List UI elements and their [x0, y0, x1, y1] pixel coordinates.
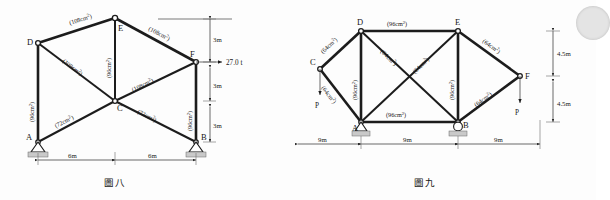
- node-label-C: C: [117, 103, 123, 113]
- load-label-27t: 27.0 t: [226, 59, 242, 67]
- svg-text:(96cm2): (96cm2): [351, 80, 359, 100]
- member-A-C: [38, 101, 115, 142]
- area-label-D-E-right: (96cm2): [387, 20, 407, 28]
- dim-label-3m-top: 3m: [213, 36, 222, 43]
- svg-text:(72cm2): (72cm2): [136, 107, 158, 124]
- svg-text:(96cm2): (96cm2): [387, 20, 407, 28]
- svg-text:(96cm2): (96cm2): [28, 102, 36, 122]
- area-label-D-E: (108cm2): [68, 12, 93, 27]
- dim-label-9m-mid: 9m: [403, 136, 412, 143]
- area-label-F-B: (96cm2): [186, 111, 194, 131]
- area-label-C-F: (108cm2): [130, 76, 155, 94]
- figure-eight-group: D E F C A B (108cm2) (108cm2) (108cm2): [26, 12, 242, 188]
- dim-label-3m-mid: 3m: [213, 82, 222, 89]
- node-label-A: A: [26, 132, 33, 142]
- dim-label-6m-right: 6m: [148, 152, 157, 159]
- member-B-F-right: [458, 76, 520, 122]
- svg-text:(108cm2): (108cm2): [130, 76, 155, 94]
- dim-label-6m-left: 6m: [68, 152, 77, 159]
- node-label-A-right: A: [352, 123, 359, 133]
- dim-label-3m-bottom: 3m: [213, 122, 222, 129]
- svg-text:(96cm2): (96cm2): [386, 111, 406, 119]
- svg-text:(64cm2): (64cm2): [411, 55, 431, 75]
- node-label-B: B: [201, 132, 207, 142]
- area-label-E-C: (96cm2): [105, 58, 113, 78]
- load-label-P-left: P: [315, 102, 319, 110]
- area-label-D-A-right: (96cm2): [351, 80, 359, 100]
- area-label-A-E-right: (64cm2): [411, 55, 431, 75]
- svg-text:(108cm2): (108cm2): [147, 24, 171, 42]
- caption-figure-nine: 圖九: [414, 177, 435, 188]
- node-label-D-right: D: [357, 17, 363, 27]
- svg-text:(108cm2): (108cm2): [61, 57, 85, 78]
- area-label-A-B-right: (96cm2): [386, 111, 406, 119]
- caption-figure-eight: 圖八: [104, 178, 125, 188]
- joint-E: [112, 15, 117, 20]
- node-label-D: D: [27, 37, 33, 47]
- node-label-E: E: [118, 23, 123, 33]
- area-label-E-B-right: (96cm2): [448, 80, 456, 100]
- area-label-D-A: (96cm2): [28, 102, 36, 122]
- joint-D: [36, 41, 41, 46]
- joint-D-right: [359, 29, 364, 34]
- member-E-F-right: [458, 31, 520, 76]
- svg-text:(64cm2): (64cm2): [481, 37, 502, 56]
- member-E-F: [115, 18, 196, 62]
- dim-label-4p5m-bottom: 4.5m: [557, 100, 571, 107]
- svg-text:(64cm2): (64cm2): [379, 47, 399, 67]
- joint-E-right: [456, 29, 461, 34]
- dim-label-9m-left: 9m: [318, 136, 327, 143]
- svg-text:(108cm2): (108cm2): [68, 12, 93, 27]
- node-label-B-right: B: [463, 120, 469, 130]
- node-label-E-right: E: [455, 17, 460, 27]
- horizontal-dimension-chain-left-figure: [38, 152, 196, 165]
- horizontal-dimension-chain-right-figure: [298, 120, 540, 149]
- figure-nine-group: C D E F A B (64cm2) (64cm2) (96cm2): [298, 17, 571, 188]
- svg-text:(96cm2): (96cm2): [186, 111, 194, 131]
- area-label-E-F: (108cm2): [147, 24, 171, 42]
- vertical-dimension-chain-right-figure: [546, 31, 560, 122]
- load-label-P-right: P: [515, 109, 519, 117]
- area-label-E-F-right: (64cm2): [481, 37, 502, 56]
- svg-text:(96cm2): (96cm2): [105, 58, 113, 78]
- area-label-C-B: (72cm2): [136, 107, 158, 124]
- member-C-B: [115, 101, 196, 142]
- node-label-C-right: C: [310, 57, 316, 67]
- member-C-F: [115, 62, 196, 101]
- area-label-D-B-right: (64cm2): [379, 47, 399, 67]
- node-label-F: F: [190, 49, 195, 59]
- dim-label-4p5m-top: 4.5m: [557, 50, 571, 57]
- dim-label-9m-right: 9m: [494, 136, 503, 143]
- svg-text:(96cm2): (96cm2): [448, 80, 456, 100]
- node-label-F-right: F: [525, 71, 530, 81]
- area-label-D-C: (108cm2): [61, 57, 85, 78]
